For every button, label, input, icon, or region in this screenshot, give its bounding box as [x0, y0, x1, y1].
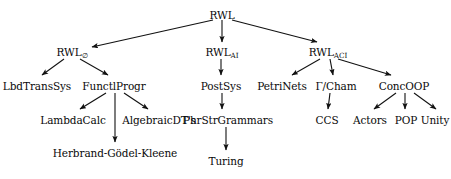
- tree-edge: [232, 20, 317, 42]
- node-subscript: ∅: [82, 51, 88, 60]
- tree-edge: [80, 93, 106, 109]
- tree-node-rwl_ai: RWLAI: [205, 46, 238, 60]
- node-label: CCS: [316, 114, 339, 126]
- node-label: PostSys: [201, 80, 241, 92]
- tree-edge: [124, 93, 148, 109]
- tree-edge: [92, 20, 213, 47]
- tree-node-phrstrgrammars: PhrStrGrammars: [183, 114, 273, 126]
- tree-node-rwl: RWL: [209, 9, 234, 21]
- tree-edge: [42, 59, 64, 75]
- tree-edge: [292, 59, 320, 75]
- node-label: Γ/Cham: [315, 80, 356, 92]
- node-label: Herbrand-Gödel-Kleene: [53, 147, 177, 159]
- tree-edge: [80, 59, 108, 75]
- node-label: PhrStrGrammars: [183, 114, 273, 126]
- tree-node-rwl_empty: RWL∅: [56, 46, 87, 60]
- node-label: LambdaCalc: [40, 114, 105, 126]
- node-label: FunctlProgr: [82, 80, 145, 92]
- tree-node-ccs: CCS: [316, 114, 339, 126]
- tree-node-actors: Actors: [353, 114, 387, 126]
- tree-node-gammacham: Γ/Cham: [315, 80, 356, 92]
- tree-node-lambdacalc: LambdaCalc: [40, 114, 105, 126]
- tree-edge: [330, 59, 333, 75]
- tree-node-rwl_aci: RWLACI: [309, 46, 348, 60]
- tree-node-turing: Turing: [208, 155, 243, 167]
- node-label: PetriNets: [257, 80, 307, 92]
- tree-node-lbdtranssys: LbdTransSys: [3, 80, 71, 92]
- tree-node-postsys: PostSys: [201, 80, 241, 92]
- node-subscript: ACI: [334, 51, 348, 60]
- tree-node-herbrand: Herbrand-Gödel-Kleene: [53, 147, 177, 159]
- tree-edge: [374, 93, 396, 109]
- tree-edge: [328, 93, 330, 109]
- node-label: Actors: [353, 114, 387, 126]
- node-label: ConcOOP: [379, 80, 430, 92]
- tree-edge: [414, 93, 436, 109]
- node-label: RWL: [205, 46, 230, 58]
- tree-diagram: RWLRWL∅RWLAIRWLACILbdTransSysFunctlProgr…: [0, 0, 451, 179]
- node-label: LbdTransSys: [3, 80, 71, 92]
- node-label: Turing: [208, 155, 243, 167]
- node-label: Unity: [421, 114, 450, 126]
- tree-node-functlprogr: FunctlProgr: [82, 80, 145, 92]
- node-subscript: AI: [231, 51, 239, 60]
- tree-node-petrinets: PetriNets: [257, 80, 307, 92]
- node-label: RWL: [309, 46, 334, 58]
- tree-node-pop: POP: [395, 114, 417, 126]
- node-label: RWL: [209, 9, 234, 21]
- node-label: RWL: [56, 46, 81, 58]
- tree-node-concoop: ConcOOP: [379, 80, 430, 92]
- node-label: POP: [395, 114, 417, 126]
- tree-node-unity: Unity: [421, 114, 450, 126]
- tree-edge: [338, 59, 391, 75]
